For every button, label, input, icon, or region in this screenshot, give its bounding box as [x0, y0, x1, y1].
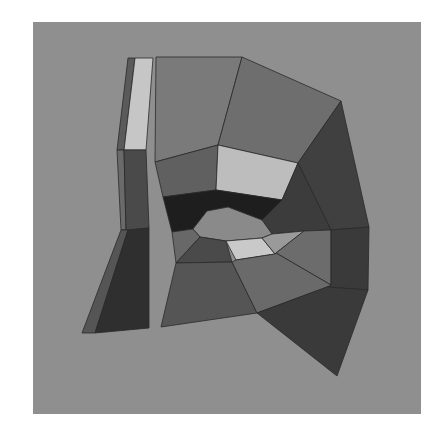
- mesh-face-right-column-dark: [327, 227, 369, 290]
- render-stage: Flat-shaded low-poly 3D mesh of mouth an…: [0, 0, 440, 428]
- lip-mesh-rendering: [0, 0, 440, 428]
- mesh-face-left-strip-mid: [124, 150, 149, 230]
